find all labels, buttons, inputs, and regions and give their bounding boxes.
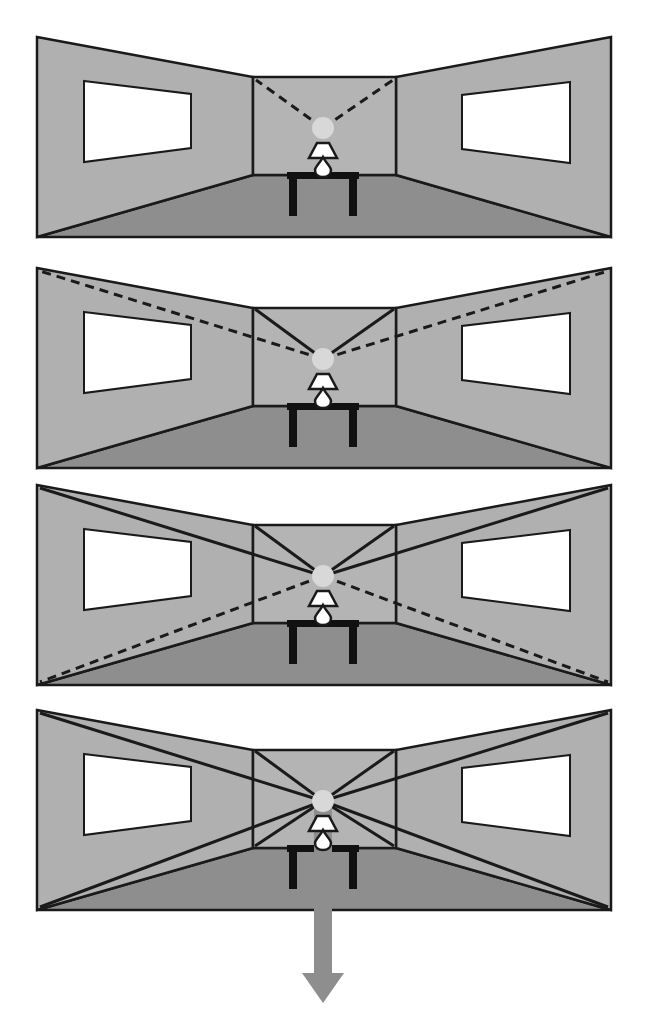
right-window	[462, 530, 570, 611]
vanishing-point-glow	[312, 790, 334, 812]
vanishing-point-glow	[312, 348, 334, 370]
left-window	[84, 81, 191, 162]
table-leg-left	[289, 410, 297, 447]
panel-3-drawing	[0, 473, 645, 698]
panel-4	[0, 698, 645, 1033]
panel-4-drawing	[0, 698, 645, 1033]
panel-3	[0, 473, 645, 698]
right-window	[462, 313, 570, 394]
table-leg-left	[289, 627, 297, 664]
left-window	[84, 529, 191, 610]
figure-canvas	[0, 0, 645, 1033]
table-leg-right	[349, 410, 357, 447]
panel-1-drawing	[0, 25, 645, 250]
arrow-shaft-overlay	[314, 843, 332, 973]
table-leg-right	[349, 852, 357, 889]
table-leg-left	[289, 179, 297, 216]
vanishing-point-glow	[312, 565, 334, 587]
table-leg-left	[289, 852, 297, 889]
left-window	[84, 312, 191, 393]
left-window	[84, 754, 191, 835]
table-leg-right	[349, 627, 357, 664]
panel-1	[0, 25, 645, 250]
table-leg-right	[349, 179, 357, 216]
arrow-head	[302, 973, 344, 1003]
panel-2	[0, 256, 645, 481]
right-window	[462, 82, 570, 163]
vanishing-point-glow	[312, 117, 334, 139]
panel-2-drawing	[0, 256, 645, 481]
right-window	[462, 755, 570, 836]
